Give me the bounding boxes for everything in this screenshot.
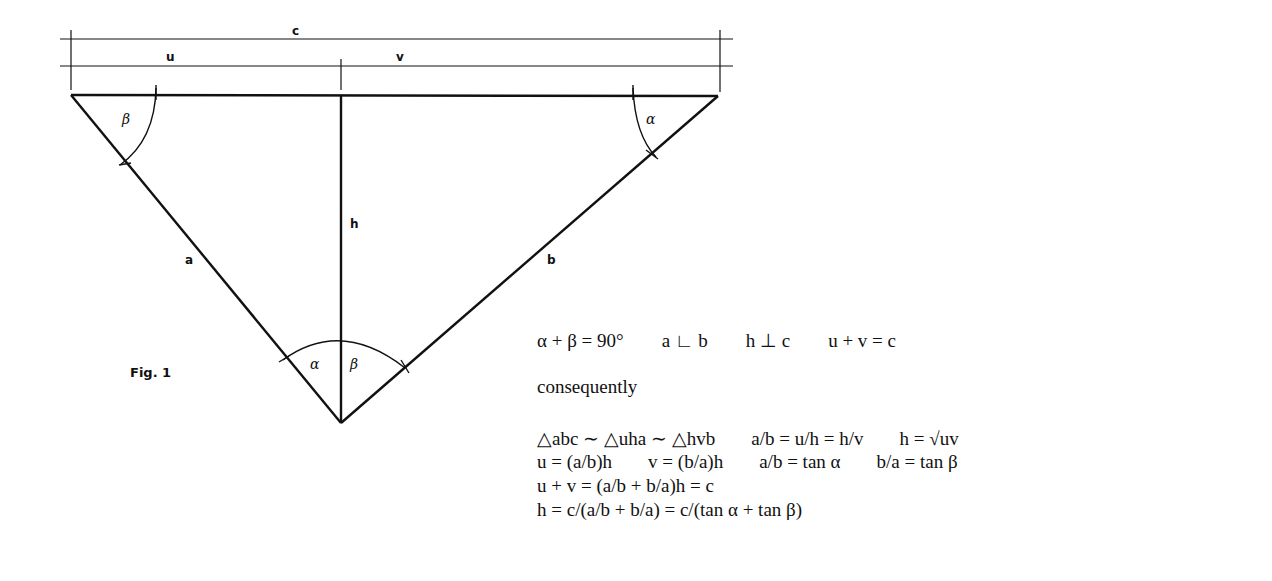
label-c: c (292, 24, 299, 38)
angle-arc-bottom (283, 341, 405, 368)
eq-a-perp-b: a ∟ b (662, 330, 708, 351)
eq-v-def: v = (b/a)h (648, 451, 723, 472)
label-b: b (547, 253, 556, 267)
equation-line-4: u + v = (a/b + b/a)h = c (537, 475, 714, 497)
eq-u-def: u = (a/b)h (537, 451, 612, 472)
label-a: a (185, 253, 193, 267)
eq-angle-sum: α + β = 90° (537, 330, 624, 351)
label-u: u (166, 50, 175, 64)
angle-label-alpha-top-right: α (646, 111, 656, 127)
angle-label-beta-bottom: β (349, 356, 358, 372)
eq-h-formula: h = c/(a/b + b/a) = c/(tan α + tan β) (537, 499, 802, 520)
hypotenuse-c (71, 95, 718, 96)
side-b (341, 96, 718, 423)
eq-sum-c: u + v = (a/b + b/a)h = c (537, 475, 714, 496)
equation-line-3: u = (a/b)hv = (b/a)ha/b = tan αb/a = tan… (537, 451, 958, 473)
eq-tan-alpha: a/b = tan α (759, 451, 840, 472)
figure-caption: Fig. 1 (130, 365, 171, 380)
eq-ratio-chain: a/b = u/h = h/v (751, 428, 863, 449)
eq-u-plus-v: u + v = c (828, 330, 896, 351)
angle-label-beta-top-left: β (121, 111, 130, 127)
side-a (71, 95, 341, 423)
equation-line-5: h = c/(a/b + b/a) = c/(tan α + tan β) (537, 499, 802, 521)
eq-tan-beta: b/a = tan β (877, 451, 958, 472)
angle-label-alpha-bottom: α (310, 356, 320, 372)
label-h: h (350, 217, 359, 231)
equation-line-1: α + β = 90°a ∟ bh ⊥ cu + v = c (537, 329, 896, 352)
eq-h-perp-c: h ⊥ c (746, 330, 790, 351)
equation-line-2: △abc ∼ △uha ∼ △hvba/b = u/h = h/vh = √uv (537, 427, 959, 450)
label-v: v (396, 50, 404, 64)
eq-h-sqrt: h = √uv (900, 428, 959, 449)
eq-similar-triangles: △abc ∼ △uha ∼ △hvb (537, 428, 715, 449)
consequently-text: consequently (537, 376, 637, 398)
